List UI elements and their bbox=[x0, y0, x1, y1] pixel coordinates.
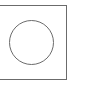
circle-shape bbox=[9, 20, 54, 65]
